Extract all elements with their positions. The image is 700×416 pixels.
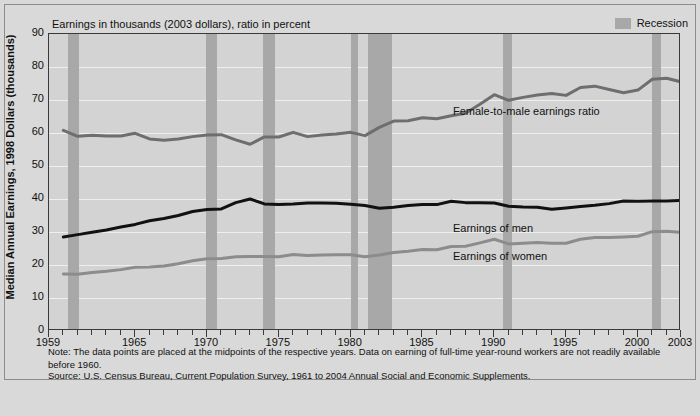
x-tick-mark <box>522 330 523 335</box>
series-label-men: Earnings of men <box>453 222 533 234</box>
x-tick-mark <box>450 330 451 335</box>
x-tick-mark <box>407 330 408 335</box>
note-data: Note: The data points are placed at the … <box>48 345 682 371</box>
x-tick-mark <box>579 330 580 335</box>
x-tick-mark <box>192 330 193 335</box>
y-tick-label: 70 <box>20 92 44 104</box>
note-source: Source: U.S. Census Bureau, Current Popu… <box>48 369 682 382</box>
x-tick-mark <box>436 330 437 335</box>
y-tick-label: 0 <box>20 323 44 335</box>
x-tick-mark <box>177 330 178 335</box>
series-lines <box>49 34 679 329</box>
series-line <box>63 199 679 237</box>
y-tick-label: 30 <box>20 224 44 236</box>
x-tick-mark <box>120 330 121 335</box>
x-tick-mark <box>62 330 63 335</box>
x-tick-mark <box>321 330 322 335</box>
x-tick-mark <box>651 330 652 335</box>
x-tick-mark <box>220 330 221 335</box>
x-tick-mark <box>378 330 379 335</box>
x-tick-mark <box>163 330 164 335</box>
y-tick-label: 40 <box>20 191 44 203</box>
figure-canvas: Earnings in thousands (2003 dollars), ra… <box>0 0 700 416</box>
y-tick-label: 90 <box>20 26 44 38</box>
x-tick-mark <box>508 330 509 335</box>
plot-area: Female-to-male earnings ratioEarnings of… <box>48 33 680 330</box>
y-tick-label: 20 <box>20 257 44 269</box>
legend: Recession <box>615 17 688 29</box>
x-tick-mark <box>149 330 150 335</box>
x-tick-mark <box>623 330 624 335</box>
y-axis-title: Median Annual Earnings, 1998 Dollars (th… <box>4 2 16 332</box>
x-tick-mark <box>594 330 595 335</box>
x-tick-mark <box>263 330 264 335</box>
x-tick-mark <box>249 330 250 335</box>
x-tick-mark <box>666 330 667 335</box>
x-tick-mark <box>608 330 609 335</box>
series-label-ratio: Female-to-male earnings ratio <box>453 105 600 117</box>
x-tick-mark <box>364 330 365 335</box>
legend-label-recession: Recession <box>637 17 688 29</box>
x-tick-mark <box>77 330 78 335</box>
x-tick-mark <box>307 330 308 335</box>
x-tick-mark <box>551 330 552 335</box>
x-tick-mark <box>292 330 293 335</box>
x-tick-mark <box>105 330 106 335</box>
x-tick-mark <box>393 330 394 335</box>
x-tick-mark <box>235 330 236 335</box>
series-label-women: Earnings of women <box>453 250 547 262</box>
x-tick-mark <box>465 330 466 335</box>
recession-swatch-icon <box>615 18 631 29</box>
x-tick-mark <box>536 330 537 335</box>
x-tick-mark <box>335 330 336 335</box>
y-tick-label: 80 <box>20 59 44 71</box>
x-tick-mark <box>479 330 480 335</box>
y-tick-label: 10 <box>20 290 44 302</box>
plot-inner: Female-to-male earnings ratioEarnings of… <box>49 34 679 329</box>
y-tick-label: 60 <box>20 125 44 137</box>
chart-subtitle: Earnings in thousands (2003 dollars), ra… <box>52 18 310 30</box>
x-tick-mark <box>91 330 92 335</box>
series-line <box>63 231 679 274</box>
y-tick-label: 50 <box>20 158 44 170</box>
